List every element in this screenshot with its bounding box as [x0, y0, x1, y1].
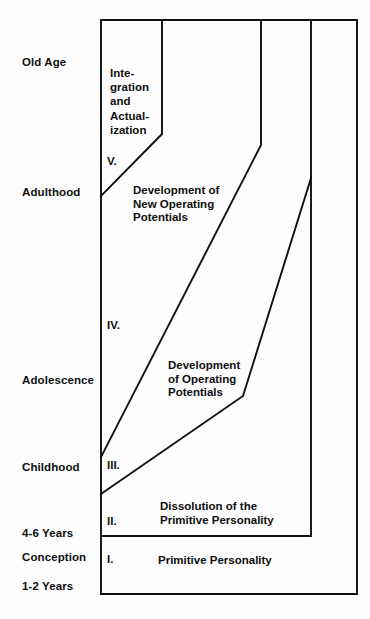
zone-numeral-iii: III.: [107, 460, 120, 472]
zone-numeral-i: I.: [107, 554, 113, 566]
axis-label-one-two-years: 1-2 Years: [22, 581, 73, 593]
axis-label-childhood: Childhood: [22, 462, 80, 474]
zone-numeral-ii: II.: [107, 516, 117, 528]
zone-label-development-operating-potentials: Development of Operating Potentials: [168, 359, 268, 400]
axis-label-adolescence: Adolescence: [22, 375, 94, 387]
axis-label-conception: Conception: [22, 552, 86, 564]
zone-label-dissolution-primitive-personality: Dissolution of the Primitive Personality: [160, 500, 305, 527]
zone-ii-boundary: [101, 178, 311, 536]
axis-label-adulthood: Adulthood: [22, 187, 80, 199]
zone-numeral-v: V.: [107, 156, 117, 168]
zone-label-integration-actualization: Inte- gration and Actual- ization: [110, 66, 162, 137]
personality-development-diagram: Old Age Adulthood Adolescence Childhood …: [0, 0, 370, 619]
axis-label-old-age: Old Age: [22, 57, 66, 69]
zone-numeral-iv: IV.: [107, 320, 120, 332]
zone-label-primitive-personality: Primitive Personality: [158, 554, 318, 568]
axis-label-four-six-years: 4-6 Years: [22, 528, 73, 540]
zone-label-development-new-operating-potentials: Development of New Operating Potentials: [133, 184, 248, 225]
